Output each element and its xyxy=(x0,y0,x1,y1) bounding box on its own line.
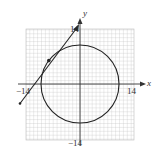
x-axis-arrow-icon xyxy=(140,82,146,87)
y-axis-label: y xyxy=(83,9,87,18)
x-axis-label: x xyxy=(147,79,151,88)
x-min-label: −14 xyxy=(16,87,30,96)
y-max-label: 14 xyxy=(70,25,79,34)
y-min-label: −14 xyxy=(68,139,82,148)
x-max-label: 14 xyxy=(127,87,136,96)
point-of-tangency xyxy=(47,59,51,63)
tangent-line-endpoint xyxy=(19,102,22,105)
coordinate-plane xyxy=(0,0,157,148)
